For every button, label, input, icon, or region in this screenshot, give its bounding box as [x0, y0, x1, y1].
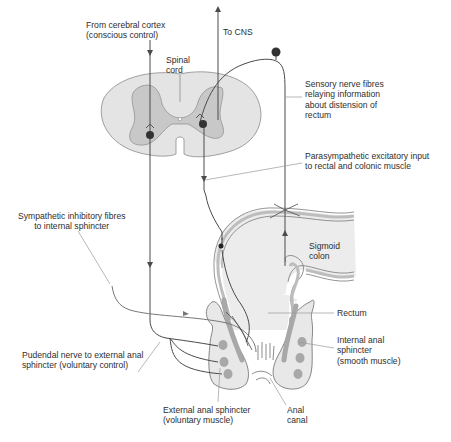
external-sphincter-oval [219, 340, 228, 350]
spinal-cord-white-matter [101, 72, 261, 157]
external-sphincter-oval [294, 369, 303, 379]
ganglion-cell-body [219, 244, 224, 249]
label-parasympathetic: Parasympathetic excitatory input to rect… [305, 151, 429, 172]
label-spinal-cord: Spinal cord [166, 55, 190, 76]
label-sensory-fibres: Sensory nerve fibres relaying informatio… [305, 79, 384, 121]
defaecation-nerve-diagram: From cerebral cortex (conscious control)… [0, 0, 451, 442]
central-canal [179, 118, 182, 121]
label-sigmoid-colon: Sigmoid colon [309, 241, 340, 262]
label-external-sphincter: External anal sphincter (voluntary muscl… [163, 405, 250, 426]
external-sphincter-oval [296, 353, 305, 363]
label-pudendal-nerve: Pudendal nerve to external anal sphincte… [22, 350, 143, 371]
label-cerebral-cortex: From cerebral cortex (conscious control) [86, 20, 165, 41]
label-sympathetic: Sympathetic inhibitory fibres to interna… [18, 211, 125, 232]
label-anal-canal: Anal canal [287, 405, 308, 426]
motor-neuron-body [146, 131, 154, 139]
label-to-cns: To CNS [223, 27, 253, 37]
spinal-cord [101, 72, 261, 157]
external-sphincter-oval [224, 369, 233, 379]
label-rectum: Rectum [337, 308, 367, 318]
label-internal-sphincter: Internal anal sphincter (smooth muscle) [337, 335, 401, 366]
parasympathetic-neuron-body [199, 120, 207, 128]
external-sphincter-oval [220, 357, 229, 367]
dorsal-root-ganglion [272, 48, 281, 57]
